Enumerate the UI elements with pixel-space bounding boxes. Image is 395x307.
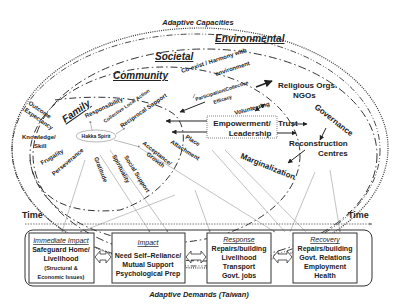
stage-line: Need Self–Reliance/ bbox=[115, 252, 182, 259]
double-arrow-icon bbox=[273, 251, 292, 263]
reciprocal-support-label: Reciprocal Support bbox=[119, 92, 168, 129]
stage-impact: Impact Need Self–Reliance/ Mutual Suppor… bbox=[112, 233, 185, 283]
stage-title: Response bbox=[223, 236, 255, 244]
double-arrow-icon bbox=[95, 251, 111, 263]
stage-response: Response Repairs/building Livelihood Tra… bbox=[207, 233, 271, 283]
adaptive-demands-label: Adaptive Demands (Taiwan) bbox=[148, 290, 249, 299]
knowledge-skill-label: Knowledge/ bbox=[22, 134, 56, 140]
time-label-right: Time bbox=[348, 210, 369, 220]
environmental-heading: Environmental bbox=[215, 33, 285, 44]
stage-line: Govt. jobs bbox=[222, 272, 256, 280]
stage-line: Employment bbox=[304, 263, 347, 271]
reconstruction-label-2: Centres bbox=[318, 149, 348, 158]
time-label-left: Time bbox=[22, 210, 43, 220]
stage-title: Recovery bbox=[310, 236, 340, 244]
hakka-spirit-node: Hakka Spirit bbox=[76, 130, 116, 142]
diagram-title: Adaptive Capacities bbox=[161, 18, 233, 27]
stage-title: Immediate Impact bbox=[33, 237, 90, 245]
leadership-label: Leadership bbox=[229, 129, 272, 138]
stage-line: Livelihood bbox=[44, 255, 79, 262]
stage-line: Livelihood bbox=[222, 254, 257, 261]
stage-recovery: Recovery Repairs/building Govt. Relation… bbox=[293, 233, 357, 283]
gratitude-label: Gratitude bbox=[93, 156, 109, 184]
hakka-spirit-label: Hakka Spirit bbox=[82, 133, 111, 139]
stage-line: Health bbox=[314, 272, 335, 279]
stage-line: Repairs/building bbox=[212, 245, 267, 253]
place-attachment-label: Place bbox=[184, 134, 201, 148]
religious-orgs-label: Religious Orgs. bbox=[278, 81, 337, 90]
religious-orgs-label-2: NGOs bbox=[293, 91, 316, 100]
knowledge-skill-label-2: Skill bbox=[34, 143, 47, 149]
coexist-label-2: environment bbox=[214, 60, 250, 77]
stage-title: Impact bbox=[137, 239, 159, 247]
double-arrow-icon bbox=[186, 251, 206, 263]
stage-line: Mutual Support bbox=[122, 261, 174, 269]
governance-label: Governance bbox=[313, 102, 355, 138]
marginalization-label: Marginalization bbox=[239, 152, 296, 182]
stage-line: Psychological Prep bbox=[116, 270, 181, 278]
empowerment-label: Empowerment/ bbox=[213, 119, 271, 128]
societal-heading: Societal bbox=[155, 51, 194, 62]
stage-line: Repairs/building bbox=[298, 245, 353, 253]
stage-line: Transport bbox=[223, 263, 256, 271]
adaptive-capacities-diagram: Adaptive Capacities Environmental Societ… bbox=[0, 0, 395, 307]
stage-line: Economic Issues) bbox=[38, 274, 85, 280]
stage-immediate-impact: Immediate Impact Safeguard Home/ Livelih… bbox=[29, 233, 94, 283]
stage-line: (Structural & bbox=[44, 265, 77, 271]
volunteering-label: Volunteering bbox=[234, 101, 271, 116]
community-heading: Community bbox=[113, 70, 168, 81]
empowerment-node: Empowerment/ Leadership bbox=[207, 116, 277, 138]
connector-lines bbox=[62, 148, 340, 232]
stage-line: Safeguard Home/ bbox=[32, 246, 90, 254]
reconstruction-label: Reconstruction bbox=[289, 139, 348, 148]
stage-line: Govt. Relations bbox=[299, 254, 350, 261]
